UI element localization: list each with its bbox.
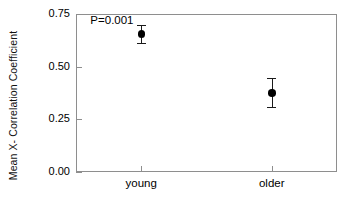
error-bar-cap-top-young: [137, 25, 146, 26]
x-tick-label-older: older: [232, 178, 312, 190]
y-axis-title: Mean X- Correlation Coefficient: [0, 0, 26, 211]
y-tick-mark-025: [76, 119, 82, 120]
y-tick-mark-050: [76, 67, 82, 68]
y-tick-label-075: 0.75: [26, 8, 70, 19]
figure-canvas: Mean X- Correlation Coefficient 0.75 0.5…: [0, 0, 356, 211]
y-tick-label-025: 0.25: [26, 113, 70, 124]
x-tick-mark-older: [272, 166, 273, 172]
data-point-older[interactable]: [268, 89, 276, 97]
data-point-young[interactable]: [138, 30, 146, 38]
error-bar-cap-bottom-older: [267, 107, 276, 108]
p-value-annotation: P=0.001: [90, 15, 133, 27]
y-tick-label-050: 0.50: [26, 61, 70, 72]
y-tick-mark-075: [76, 14, 82, 15]
plot-area: P=0.001: [76, 14, 337, 172]
y-tick-mark-000: [76, 172, 82, 173]
y-tick-label-000: 0.00: [26, 166, 70, 177]
x-tick-mark-young: [141, 166, 142, 172]
error-bar-cap-bottom-young: [137, 43, 146, 44]
error-bar-cap-top-older: [267, 78, 276, 79]
x-tick-label-young: young: [101, 178, 181, 190]
